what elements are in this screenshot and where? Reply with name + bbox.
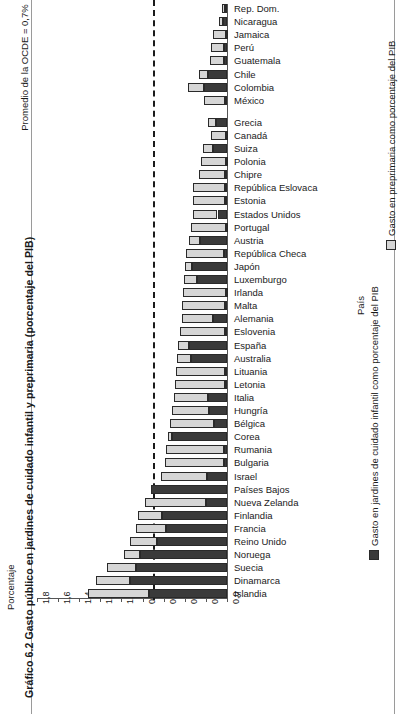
bar-segment-childcare [225,96,227,105]
bar-row [0,17,412,26]
bar-segment-preprimary [161,472,207,481]
bar-segment-childcare [214,419,227,428]
value-axis-tick [79,598,80,602]
value-axis-tick [185,598,186,602]
bar-segment-preprimary [210,56,224,65]
bar-segment-childcare [225,380,227,389]
bar-segment-childcare [136,563,227,572]
category-label: Canadá [234,131,267,140]
bar-row [0,56,412,65]
category-label: Jamaica [234,30,269,39]
bar-segment-childcare [213,314,227,323]
bar-segment-preprimary [130,537,157,546]
category-label: Suiza [234,144,258,153]
bar-segment-preprimary [219,17,223,26]
category-label: Grecia [234,118,262,127]
category-label: Bélgica [234,419,265,428]
category-label: Guatemala [234,56,280,65]
bar-row [0,236,412,245]
category-label: Rumania [234,445,272,454]
bar-segment-preprimary [168,432,172,441]
bar-segment-childcare [225,327,227,336]
legend-label-preprimary: Gasto en preprimaria como porcentaje del… [386,41,397,236]
bar-segment-preprimary [166,445,224,454]
bar-segment-preprimary [222,4,225,13]
bar-segment-preprimary [174,393,208,402]
bar-row [0,118,412,127]
bar-row [0,511,412,520]
bar-segment-childcare [225,4,227,13]
bar-segment-childcare [192,262,227,271]
category-label: Corea [234,432,260,441]
category-label: Eslovenia [234,327,275,336]
legend-swatch-childcare-icon [369,550,379,560]
category-label: Colombia [234,83,274,92]
bar-segment-childcare [224,56,227,65]
bar-segment-preprimary [208,118,216,127]
value-axis-tick [227,598,228,602]
bar-segment-childcare [207,472,227,481]
category-label: Países Bajos [234,485,289,494]
value-axis-tick [100,598,101,602]
bar-segment-childcare [140,550,227,559]
bar-segment-childcare [149,589,227,598]
bar-segment-preprimary [176,367,225,376]
bar-segment-childcare [204,83,227,92]
bar-segment-preprimary [107,563,137,572]
category-label: Suecia [234,563,263,572]
category-label: Finlandia [234,511,273,520]
bar-segment-preprimary [191,223,226,232]
bar-row [0,70,412,79]
bar-segment-childcare [225,170,227,179]
category-label: República Checa [234,249,306,258]
bar-row [0,367,412,376]
category-label: República Eslovaca [234,183,317,192]
category-label: Australia [234,354,271,363]
legend-item-childcare: Gasto en jardines de cuidado infantil co… [368,286,380,560]
bar-segment-childcare [208,70,227,79]
bar-row [0,96,412,105]
bar-segment-preprimary [203,144,214,153]
bar-row [0,589,412,598]
category-label: Rep. Dom. [234,4,279,13]
bar-segment-preprimary [170,419,214,428]
bar-segment-preprimary [180,327,225,336]
bar-row [0,341,412,350]
category-label: Reino Unido [234,537,286,546]
bar-segment-childcare [226,131,228,140]
bar-row [0,262,412,271]
bar-row [0,576,412,585]
category-label: Chipre [234,170,262,179]
bar-segment-childcare [226,288,228,297]
category-label: Portugal [234,223,269,232]
bar-segment-preprimary [211,43,224,52]
bar-segment-childcare [226,223,228,232]
figure-page: Gráfico 6.2 Gasto público en jardines de… [0,0,412,714]
bar-segment-childcare [216,118,227,127]
value-axis-tick [164,598,165,602]
bar-segment-childcare [225,183,227,192]
bar-row [0,563,412,572]
bar-segment-preprimary [199,170,225,179]
value-axis-tick [37,598,38,602]
bar-row [0,183,412,192]
value-axis-tick [143,598,144,602]
bar-segment-preprimary [211,131,226,140]
value-axis-tick [206,598,207,602]
category-label: Italia [234,393,254,402]
bar-segment-childcare [208,393,227,402]
category-label: Dinamarca [234,576,280,585]
bar-segment-childcare [225,301,227,310]
category-label: Irlanda [234,288,263,297]
bar-segment-preprimary [189,236,200,245]
bar-row [0,30,412,39]
bar-row [0,83,412,92]
bar-row [0,144,412,153]
legend-item-preprimary: Gasto en preprimaria como porcentaje del… [385,41,397,250]
category-label: Bulgaria [234,458,269,467]
bar-row [0,485,412,494]
bar-segment-preprimary [178,341,189,350]
bar-segment-preprimary [183,288,226,297]
bar-segment-preprimary [193,196,225,205]
category-label: Francia [234,524,266,533]
